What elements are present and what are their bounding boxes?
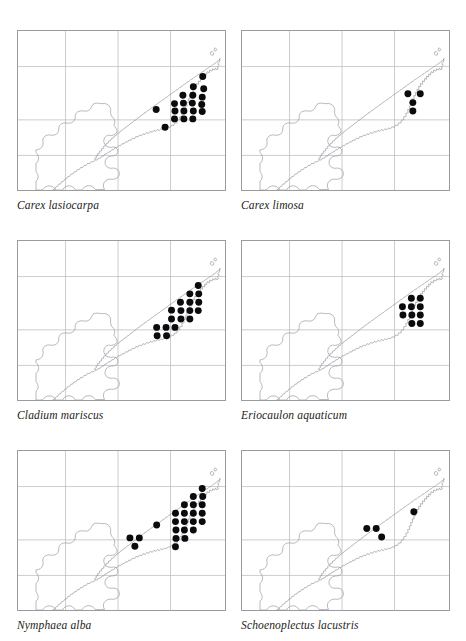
- occurrence-dot[interactable]: [373, 525, 380, 532]
- species-caption: Carex lasiocarpa: [17, 199, 230, 211]
- coastline-islet-b: [214, 468, 217, 471]
- occurrence-dot[interactable]: [173, 527, 180, 534]
- occurrence-dot[interactable]: [189, 115, 196, 122]
- occurrence-dot[interactable]: [363, 525, 370, 532]
- occurrence-dot[interactable]: [186, 299, 193, 306]
- occurrence-dot[interactable]: [126, 534, 133, 541]
- occurrence-dot[interactable]: [131, 543, 138, 550]
- distribution-map-panel[interactable]: [17, 450, 226, 611]
- occurrence-dot[interactable]: [186, 290, 193, 297]
- occurrence-dot[interactable]: [154, 332, 161, 339]
- occurrence-dot[interactable]: [180, 115, 187, 122]
- distribution-map-panel[interactable]: [241, 30, 450, 191]
- occurrence-dot[interactable]: [171, 115, 178, 122]
- occurrence-dot[interactable]: [417, 312, 424, 319]
- occurrence-dot[interactable]: [179, 92, 186, 99]
- occurrence-dot[interactable]: [417, 295, 424, 302]
- occurrence-dot[interactable]: [404, 90, 411, 97]
- occurrence-dot[interactable]: [408, 303, 415, 310]
- coastline-main-island: [319, 59, 444, 160]
- map-cell-2: Carex limosa: [241, 30, 454, 211]
- occurrence-dot[interactable]: [410, 508, 417, 515]
- distribution-map-panel[interactable]: [17, 240, 226, 401]
- occurrence-dot[interactable]: [409, 99, 416, 106]
- map-cell-3: Cladium mariscus: [17, 240, 230, 421]
- occurrence-dot[interactable]: [190, 83, 197, 90]
- occurrence-dot[interactable]: [408, 295, 415, 302]
- occurrence-dot[interactable]: [189, 92, 196, 99]
- occurrence-dot[interactable]: [177, 299, 184, 306]
- occurrence-dot[interactable]: [199, 510, 206, 517]
- occurrence-dot[interactable]: [186, 316, 193, 323]
- occurrence-dot[interactable]: [181, 527, 188, 534]
- occurrence-dot[interactable]: [181, 535, 188, 542]
- occurrence-dot[interactable]: [189, 100, 196, 107]
- occurrence-dot[interactable]: [195, 299, 202, 306]
- occurrence-dot[interactable]: [172, 510, 179, 517]
- occurrence-dot[interactable]: [181, 510, 188, 517]
- occurrence-dot[interactable]: [181, 501, 188, 508]
- occurrence-dot[interactable]: [163, 324, 170, 331]
- occurrence-dot[interactable]: [153, 324, 160, 331]
- occurrence-dot[interactable]: [199, 493, 206, 500]
- occurrence-dot[interactable]: [195, 307, 202, 314]
- occurrence-dot[interactable]: [171, 100, 178, 107]
- occurrence-dot[interactable]: [172, 108, 179, 115]
- occurrence-dot[interactable]: [408, 320, 415, 327]
- occurrence-dot[interactable]: [190, 493, 197, 500]
- coastline-outline: [260, 258, 444, 400]
- occurrence-dot[interactable]: [399, 312, 406, 319]
- occurrence-dot[interactable]: [153, 106, 160, 113]
- occurrence-dot[interactable]: [408, 312, 415, 319]
- occurrence-dot[interactable]: [190, 501, 197, 508]
- occurrence-dot[interactable]: [417, 303, 424, 310]
- occurrence-dot[interactable]: [199, 94, 206, 101]
- distribution-map-panel[interactable]: [241, 450, 450, 611]
- occurrence-dot[interactable]: [173, 535, 180, 542]
- occurrence-dot[interactable]: [180, 100, 187, 107]
- coastline-islet-a: [210, 472, 214, 476]
- occurrence-dot[interactable]: [153, 522, 160, 529]
- occurrence-dot[interactable]: [190, 518, 197, 525]
- occurrence-dot[interactable]: [168, 316, 175, 323]
- distribution-map-panel[interactable]: [17, 30, 226, 191]
- species-caption: Carex limosa: [241, 199, 454, 211]
- occurrence-dot[interactable]: [180, 108, 187, 115]
- occurrence-dot[interactable]: [177, 316, 184, 323]
- occurrence-dot[interactable]: [409, 108, 416, 115]
- occurrence-dot[interactable]: [198, 101, 205, 108]
- occurrence-dot[interactable]: [195, 282, 202, 289]
- occurrence-dot[interactable]: [199, 108, 206, 115]
- occurrence-dot[interactable]: [136, 534, 143, 541]
- occurrence-dot[interactable]: [190, 510, 197, 517]
- occurrence-dot[interactable]: [190, 108, 197, 115]
- occurrence-dot[interactable]: [417, 320, 424, 327]
- occurrence-dot[interactable]: [163, 332, 170, 339]
- map-canvas: [242, 241, 449, 400]
- coastline-islet-b: [438, 468, 441, 471]
- occurrence-dot[interactable]: [417, 90, 424, 97]
- occurrence-dot[interactable]: [162, 124, 169, 131]
- coastline-southwest-landmass: [36, 103, 119, 190]
- occurrence-dot[interactable]: [186, 307, 193, 314]
- occurrence-dot[interactable]: [199, 518, 206, 525]
- occurrence-dot[interactable]: [378, 533, 385, 540]
- coastline-islet-a: [210, 52, 214, 56]
- occurrence-dot[interactable]: [199, 501, 206, 508]
- occurrence-dot[interactable]: [190, 527, 197, 534]
- coastline-outline: [260, 468, 444, 610]
- distribution-map-panel[interactable]: [241, 240, 450, 401]
- map-cell-1: Carex lasiocarpa: [17, 30, 230, 211]
- occurrence-dot[interactable]: [199, 485, 206, 492]
- occurrence-dot[interactable]: [199, 73, 206, 80]
- occurrence-dot[interactable]: [172, 324, 179, 331]
- occurrence-dot[interactable]: [177, 307, 184, 314]
- occurrence-dot[interactable]: [168, 307, 175, 314]
- occurrence-dot[interactable]: [200, 85, 207, 92]
- occurrence-dot[interactable]: [172, 543, 179, 550]
- occurrence-dot[interactable]: [172, 518, 179, 525]
- occurrence-dot[interactable]: [195, 290, 202, 297]
- occurrence-dot[interactable]: [399, 303, 406, 310]
- occurrence-dot[interactable]: [181, 518, 188, 525]
- species-caption: Schoenoplectus lacustris: [241, 619, 454, 631]
